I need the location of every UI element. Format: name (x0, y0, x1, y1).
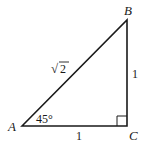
angle-label-a: 45° (36, 112, 53, 126)
vertex-label-c: C (129, 128, 138, 143)
radical-sign: √ (51, 61, 59, 76)
vertex-label-b: B (124, 3, 132, 18)
side-label-vertical: 1 (132, 67, 138, 81)
side-label-horizontal: 1 (76, 129, 82, 143)
triangle-abc (22, 20, 127, 126)
vertex-label-a: A (7, 119, 16, 134)
radicand: 2 (60, 62, 66, 76)
triangle-diagram: A B C 1 1 √ 2 45° (0, 0, 144, 148)
right-angle-marker (117, 116, 127, 126)
side-label-hypotenuse: √ 2 (51, 61, 69, 76)
